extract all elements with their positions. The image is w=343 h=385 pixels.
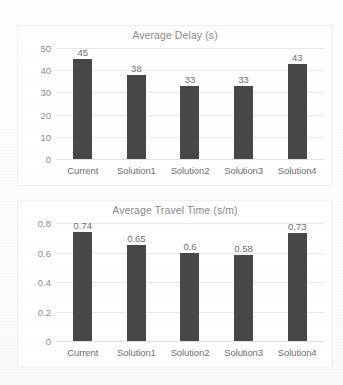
- x-axis-category-label: Solution1: [110, 165, 164, 176]
- y-axis-tick-label: 0.6: [38, 247, 51, 258]
- bar: [234, 86, 253, 159]
- bar-slot: 38: [110, 48, 164, 159]
- bar: [73, 59, 92, 159]
- x-axis-category-label: Solution4: [270, 347, 324, 358]
- chart-title: Average Travel Time (s/m): [18, 204, 332, 216]
- gridline: [56, 341, 324, 342]
- bar-data-label: 0.6: [163, 241, 217, 252]
- x-axis-category-label: Solution1: [110, 347, 164, 358]
- plot-area-delay: 50403020100 4538333343: [56, 48, 324, 159]
- bar-data-label: 33: [217, 74, 271, 85]
- bar-slot: 0.74: [56, 223, 110, 341]
- y-axis-tick-label: 0.2: [38, 306, 51, 317]
- bar-data-label: 0.74: [56, 220, 110, 231]
- y-axis-tick-label: 0: [46, 336, 51, 347]
- chart-title: Average Delay (s): [18, 29, 332, 41]
- bar-series-delay: 4538333343: [56, 48, 324, 159]
- bar: [234, 255, 253, 341]
- bar-series-travel: 0.740.650.60.580.73: [56, 223, 324, 341]
- bar-data-label: 0.73: [270, 221, 324, 232]
- bar-slot: 0.58: [217, 223, 271, 341]
- x-axis-category-label: Solution3: [217, 347, 271, 358]
- chart-average-delay: Average Delay (s) 50403020100 4538333343…: [17, 25, 333, 186]
- x-axis-category-label: Solution2: [163, 347, 217, 358]
- bar: [180, 253, 199, 342]
- bar: [73, 232, 92, 341]
- x-axis-category-label: Solution4: [270, 165, 324, 176]
- y-axis-tick-label: 10: [40, 131, 51, 142]
- bar-data-label: 33: [163, 74, 217, 85]
- x-axis-labels-travel: CurrentSolution1Solution2Solution3Soluti…: [56, 344, 324, 360]
- scanned-page: Average Delay (s) 50403020100 4538333343…: [0, 0, 343, 385]
- x-axis-category-label: Current: [56, 347, 110, 358]
- x-axis-category-label: Solution3: [217, 165, 271, 176]
- bar-slot: 45: [56, 48, 110, 159]
- bar-slot: 0.6: [163, 223, 217, 341]
- x-axis-category-label: Current: [56, 165, 110, 176]
- x-axis-labels-delay: CurrentSolution1Solution2Solution3Soluti…: [56, 162, 324, 178]
- bar-slot: 0.73: [270, 223, 324, 341]
- bar-data-label: 0.58: [217, 243, 271, 254]
- page-caption-cropped: [22, 379, 252, 385]
- y-axis-tick-label: 0.8: [38, 218, 51, 229]
- bar-data-label: 45: [56, 47, 110, 58]
- y-axis-tick-label: 40: [40, 65, 51, 76]
- y-axis-tick-label: 50: [40, 43, 51, 54]
- bar-data-label: 0.65: [110, 233, 164, 244]
- bar: [180, 86, 199, 159]
- y-axis-tick-label: 0.4: [38, 277, 51, 288]
- y-axis-tick-label: 30: [40, 87, 51, 98]
- y-axis-tick-label: 20: [40, 109, 51, 120]
- y-axis-tick-label: 0: [46, 154, 51, 165]
- bar-slot: 33: [163, 48, 217, 159]
- plot-area-travel: 0.80.60.40.20 0.740.650.60.580.73: [56, 223, 324, 341]
- bar: [288, 233, 307, 341]
- bar-data-label: 38: [110, 63, 164, 74]
- chart-average-travel-time: Average Travel Time (s/m) 0.80.60.40.20 …: [17, 200, 333, 368]
- x-axis-category-label: Solution2: [163, 165, 217, 176]
- bar: [127, 245, 146, 341]
- bar-slot: 43: [270, 48, 324, 159]
- gridline: [56, 159, 324, 160]
- bar-data-label: 43: [270, 52, 324, 63]
- bar-slot: 33: [217, 48, 271, 159]
- bar: [288, 64, 307, 159]
- bar-slot: 0.65: [110, 223, 164, 341]
- bar: [127, 75, 146, 159]
